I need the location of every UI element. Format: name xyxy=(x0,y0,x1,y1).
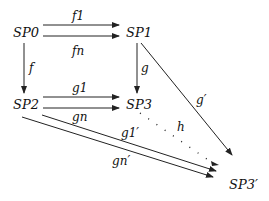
label-g: g xyxy=(141,61,149,75)
arrow-g-prime xyxy=(141,43,232,155)
label-f1: f1 xyxy=(71,9,84,23)
label-fn: fn xyxy=(71,44,84,58)
node-sp1: SP1 xyxy=(126,25,152,40)
commutative-diagram: SP0 SP1 SP2 SP3 SP3′ f1 fn f g g′ g1 gn … xyxy=(0,0,269,201)
node-sp2: SP2 xyxy=(13,97,39,112)
label-h: h xyxy=(177,120,185,134)
node-sp3-prime: SP3′ xyxy=(229,177,258,192)
label-f: f xyxy=(28,61,36,75)
label-gn-prime: gn′ xyxy=(112,154,130,168)
node-sp3: SP3 xyxy=(126,97,152,112)
node-sp0: SP0 xyxy=(13,25,39,40)
label-gn: gn xyxy=(72,110,87,124)
label-g1-prime: g1′ xyxy=(121,126,139,140)
label-g-prime: g′ xyxy=(196,93,207,107)
label-g1: g1 xyxy=(72,81,87,95)
arrow-h-head xyxy=(211,161,219,166)
